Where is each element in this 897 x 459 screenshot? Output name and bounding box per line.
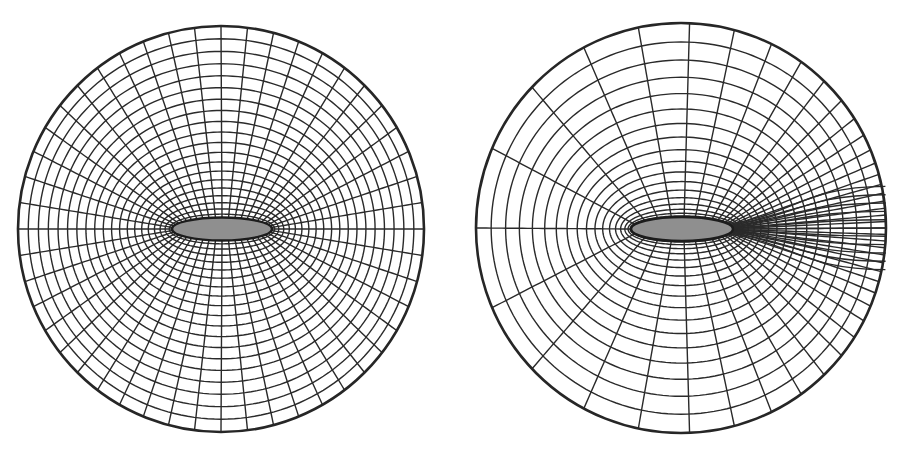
mesh-radial-line bbox=[221, 241, 222, 433]
left-mesh-panel bbox=[18, 26, 424, 432]
mesh-figure bbox=[0, 0, 897, 459]
right-mesh-elliptic-body bbox=[631, 217, 733, 241]
left-mesh-elliptic-body bbox=[172, 218, 272, 241]
mesh-radial-line bbox=[476, 228, 631, 229]
mesh-radial-line bbox=[221, 26, 222, 218]
